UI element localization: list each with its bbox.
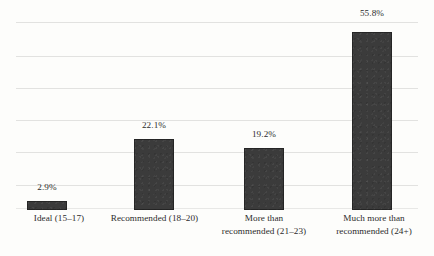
bar-rect[interactable] xyxy=(27,201,67,210)
bars-layer: 2.9% 22.1% 19.2% 55.8% xyxy=(16,18,418,210)
bar-group-much-more-than-recommended: 55.8% xyxy=(352,18,392,210)
bar-rect[interactable] xyxy=(352,32,392,210)
bar-group-ideal: 2.9% xyxy=(27,18,67,210)
category-label-recommended: Recommended (18–20) xyxy=(89,212,220,225)
category-label-much-more-than-recommended: Much more than recommended (24+) xyxy=(313,212,434,237)
bar-value-label: 2.9% xyxy=(37,182,57,192)
category-label-more-than-recommended: More than recommended (21–23) xyxy=(205,212,323,237)
bar-value-label: 55.8% xyxy=(360,8,384,18)
category-label-line: More than xyxy=(205,212,323,225)
bar-group-more-than-recommended: 19.2% xyxy=(244,18,284,210)
bar-value-label: 19.2% xyxy=(252,129,276,139)
category-label-line: recommended (21–23) xyxy=(205,225,323,238)
category-label-line: Recommended (18–20) xyxy=(89,212,220,225)
bar-rect[interactable] xyxy=(134,139,174,210)
bar-value-label: 22.1% xyxy=(142,120,166,130)
bar-chart: 2.9% 22.1% 19.2% 55.8% Ideal (15–17) Rec… xyxy=(0,0,434,256)
category-label-line: Much more than xyxy=(313,212,434,225)
bar-group-recommended: 22.1% xyxy=(134,18,174,210)
bar-rect[interactable] xyxy=(244,148,284,210)
category-label-line: recommended (24+) xyxy=(313,225,434,238)
category-labels: Ideal (15–17) Recommended (18–20) More t… xyxy=(16,212,418,256)
